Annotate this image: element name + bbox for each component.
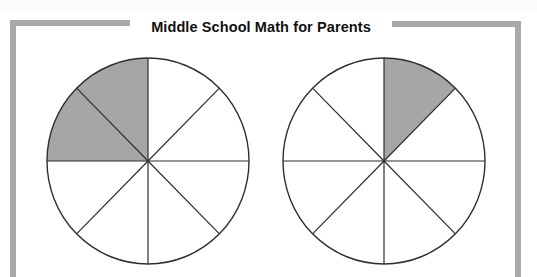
fraction-circles-diagram: [0, 0, 537, 277]
center-point: [383, 160, 386, 163]
fraction-circle-one-eighth: [283, 58, 485, 264]
center-point: [147, 160, 150, 163]
fraction-circle-two-eighths: [47, 58, 249, 264]
